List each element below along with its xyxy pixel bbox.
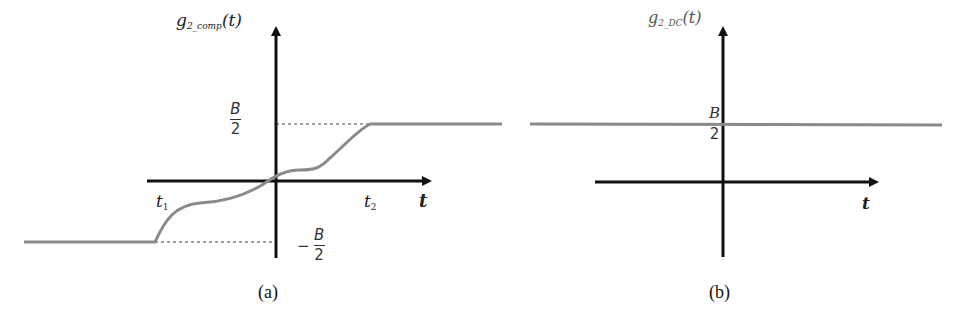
constant-level-label-b: B 2: [709, 105, 720, 143]
xlabel-a: t: [419, 190, 427, 211]
t2-sub: 2: [371, 202, 377, 212]
upper-num: B: [230, 101, 240, 118]
const-den: 2: [709, 126, 720, 143]
g2-dc-constant-line: [530, 124, 942, 125]
ylabel-a-sub: 2_comp: [187, 21, 222, 31]
panel-a: [24, 30, 502, 258]
xlabel-b: t: [862, 193, 870, 213]
figure-canvas: [0, 0, 964, 323]
caption-b: (b): [709, 282, 730, 303]
ylabel-b-sub: 2_DC: [658, 18, 682, 28]
panel-b: [530, 30, 942, 257]
const-num: B: [709, 105, 720, 122]
minus-sign: −: [297, 237, 310, 255]
ylabel-a-base: g: [176, 10, 187, 30]
lower-num: B: [314, 227, 324, 244]
tick-t1: t1: [156, 191, 169, 212]
lower-level-label-a: − B 2: [297, 227, 325, 264]
ylabel-a: g2_comp(t): [176, 10, 242, 31]
lower-den: 2: [314, 247, 324, 264]
ylabel-b: g2_DC(t): [648, 8, 702, 28]
ylabel-b-base: g: [648, 8, 658, 27]
ylabel-a-arg: (t): [222, 10, 242, 30]
t2-base: t: [364, 191, 371, 211]
tick-t2: t2: [364, 191, 377, 212]
ylabel-b-arg: (t): [683, 8, 702, 27]
caption-a: (a): [258, 282, 278, 303]
t1-base: t: [156, 191, 163, 211]
upper-den: 2: [231, 121, 241, 138]
g2-comp-curve: [24, 124, 502, 242]
t1-sub: 1: [163, 202, 169, 212]
upper-level-label-a: B 2: [230, 101, 241, 138]
